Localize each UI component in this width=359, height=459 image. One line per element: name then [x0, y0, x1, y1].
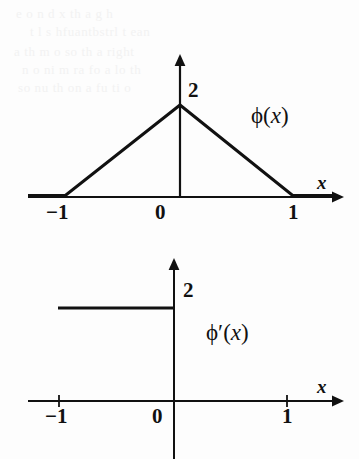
- phi-chart-plot: [0, 0, 359, 230]
- phi-prime-xtick-one: 1: [282, 404, 293, 429]
- phi-prime-xtick-neg1: −1: [45, 404, 67, 429]
- phi-y-axis-arrow-icon: [175, 54, 186, 66]
- phi-xtick-one: 1: [288, 200, 299, 225]
- phi-prime-function-label: ϕ′(x): [206, 320, 249, 346]
- phi-label-prefix: ϕ(: [251, 103, 271, 128]
- phi-x-axis-label: x: [317, 172, 327, 194]
- phi-function-label: ϕ(x): [251, 103, 289, 129]
- phi-prime-x-axis-label: x: [317, 376, 327, 398]
- phi-prime-x-axis-arrow-icon: [332, 396, 344, 407]
- phi-label-variable: x: [271, 103, 281, 128]
- phi-prime-y-value-label: 2: [183, 278, 194, 303]
- phi-prime-xtick-zero: 0: [152, 404, 163, 429]
- phi-xtick-zero: 0: [155, 200, 166, 225]
- phi-prime-label-suffix: ): [241, 320, 249, 345]
- phi-label-suffix: ): [281, 103, 289, 128]
- phi-xtick-neg1: −1: [46, 200, 68, 225]
- phi-prime-label-variable: x: [231, 320, 241, 345]
- phi-y-value-label: 2: [188, 78, 199, 103]
- figure-page: e o n d x th a g h t l s hfuantbstrl t e…: [0, 0, 359, 459]
- phi-prime-y-axis-arrow-icon: [169, 258, 180, 270]
- phi-prime-label-prefix: ϕ′(: [206, 320, 231, 345]
